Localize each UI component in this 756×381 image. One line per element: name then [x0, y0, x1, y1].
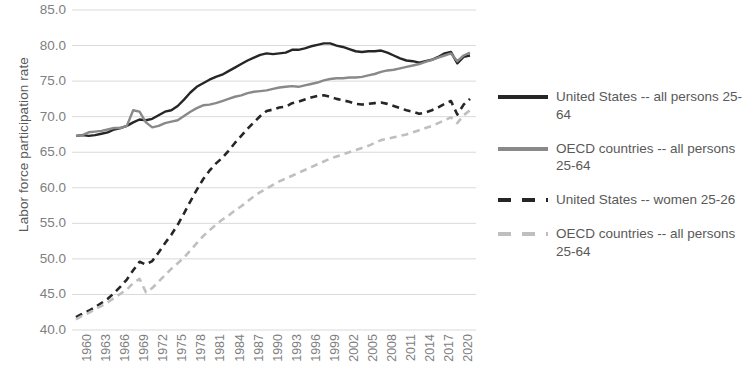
y-tick-label: 80.0: [20, 39, 66, 53]
x-tick-label: 2008: [386, 334, 399, 362]
y-tick-label: 50.0: [20, 252, 66, 266]
gridlines: [72, 10, 476, 330]
x-tick-label: 1987: [253, 334, 266, 362]
plot-svg: [72, 4, 476, 332]
x-tick-label: 1969: [138, 334, 151, 362]
x-tick-label: 1981: [214, 334, 227, 362]
y-tick-label: 70.0: [20, 110, 66, 124]
y-axis-tick-labels: 85.080.075.070.065.060.055.050.045.040.0: [16, 0, 66, 381]
y-tick-label: 60.0: [20, 181, 66, 195]
line-chart-figure: Labor force participation rate 85.080.07…: [0, 0, 756, 381]
legend-item[interactable]: OECD countries -- all persons 25-64: [497, 140, 749, 176]
x-tick-label: 1966: [119, 334, 132, 362]
legend-item[interactable]: United States -- women 25-26: [497, 191, 749, 209]
x-tick-label: 1996: [310, 334, 323, 362]
x-tick-label: 2014: [424, 334, 437, 362]
chart-legend: United States -- all persons 25-64OECD c…: [497, 88, 749, 277]
legend-item[interactable]: OECD countries -- all persons 25-64: [497, 225, 749, 261]
legend-label: OECD countries -- all persons 25-64: [556, 225, 749, 261]
legend-label: OECD countries -- all persons 25-64: [556, 140, 749, 176]
x-tick-label: 2005: [367, 334, 380, 362]
legend-item[interactable]: United States -- all persons 25-64: [497, 88, 749, 124]
y-tick-label: 55.0: [20, 216, 66, 230]
y-tick-label: 45.0: [20, 287, 66, 301]
legend-line-sample: [497, 142, 549, 156]
x-tick-label: 1999: [329, 334, 342, 362]
x-tick-label: 1960: [81, 334, 94, 362]
data-series-group: [76, 43, 470, 319]
x-tick-label: 1972: [157, 334, 170, 362]
y-tick-label: 65.0: [20, 145, 66, 159]
x-tick-label: 1984: [234, 334, 247, 362]
x-tick-label: 1975: [176, 334, 189, 362]
series-line: [76, 110, 470, 319]
series-line: [76, 53, 470, 136]
x-tick-label: 1990: [272, 334, 285, 362]
legend-line-sample: [497, 90, 549, 104]
legend-line-sample: [497, 227, 549, 241]
x-tick-label: 1978: [195, 334, 208, 362]
legend-label: United States -- all persons 25-64: [556, 88, 749, 124]
legend-label: United States -- women 25-26: [556, 191, 735, 209]
y-tick-label: 40.0: [20, 323, 66, 337]
y-tick-label: 75.0: [20, 74, 66, 88]
x-tick-label: 2020: [462, 334, 475, 362]
x-axis-tick-labels: 1960196319661969197219751978198119841987…: [72, 334, 476, 381]
y-tick-label: 85.0: [20, 3, 66, 17]
x-tick-label: 2017: [443, 334, 456, 362]
x-tick-label: 1993: [291, 334, 304, 362]
series-line: [76, 95, 470, 317]
legend-line-sample: [497, 193, 549, 207]
plot-area: [72, 4, 476, 332]
x-tick-label: 1963: [100, 334, 113, 362]
x-tick-label: 2002: [348, 334, 361, 362]
x-tick-label: 2011: [405, 334, 418, 361]
